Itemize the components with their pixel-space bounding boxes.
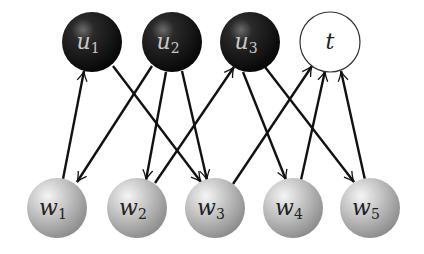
node-w3: w3 bbox=[185, 178, 245, 238]
nodes-layer: u1u2u3tw1w2w3w4w5 bbox=[27, 12, 400, 238]
edge-w1-to-u1 bbox=[63, 71, 84, 179]
graph-diagram: u1u2u3tw1w2w3w4w5 bbox=[0, 0, 424, 254]
node-subscript: 5 bbox=[371, 206, 380, 222]
node-subscript: 3 bbox=[216, 206, 225, 222]
node-label: t bbox=[326, 29, 335, 54]
edge-u3-to-w5 bbox=[265, 67, 354, 182]
edge-u3-to-w4 bbox=[243, 72, 286, 180]
edges-layer bbox=[63, 66, 365, 184]
node-w5: w5 bbox=[340, 178, 400, 238]
node-u1: u1 bbox=[62, 12, 122, 72]
node-u2: u2 bbox=[142, 12, 202, 72]
edge-u2-to-w2 bbox=[146, 72, 166, 180]
edge-w4-to-t bbox=[301, 71, 325, 180]
node-subscript: 3 bbox=[249, 40, 258, 56]
edge-w2-to-u3 bbox=[155, 67, 234, 183]
node-w1: w1 bbox=[27, 178, 87, 238]
edge-w3-to-t bbox=[233, 66, 312, 184]
edge-w5-to-t bbox=[341, 71, 365, 180]
node-t: t bbox=[300, 12, 360, 72]
node-subscript: 2 bbox=[138, 206, 147, 222]
edge-u2-to-w1 bbox=[77, 66, 152, 182]
node-subscript: 1 bbox=[58, 206, 67, 222]
node-subscript: 1 bbox=[91, 40, 100, 56]
node-subscript: 4 bbox=[294, 206, 303, 222]
node-u3: u3 bbox=[220, 12, 280, 72]
node-w2: w2 bbox=[107, 178, 167, 238]
node-subscript: 2 bbox=[171, 40, 180, 56]
node-w4: w4 bbox=[263, 178, 323, 238]
